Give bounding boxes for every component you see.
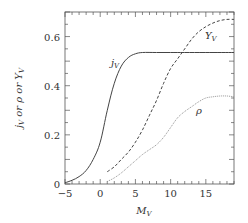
y-tick-label: 0.2: [44, 130, 60, 141]
curve-label-j: jV: [109, 57, 120, 70]
curve-label-upsilon: ΥV: [205, 30, 218, 43]
x-tick-label: 10: [164, 188, 177, 199]
y-axis-title: jV or ρ or ΥV: [13, 67, 26, 130]
y-tick-label: 0.6: [44, 32, 60, 43]
chart: −505101500.20.40.6 MV jV or ρ or ΥV jV Υ…: [0, 0, 248, 223]
y-tick-label: 0: [54, 179, 60, 190]
x-tick-label: 5: [132, 188, 138, 199]
series-line: [107, 96, 234, 182]
y-tick-label: 0.4: [44, 81, 60, 92]
curve-label-rho: ρ: [195, 105, 202, 116]
data-series: [65, 19, 234, 182]
x-tick-label: 0: [97, 188, 103, 199]
x-axis-title: MV: [135, 205, 152, 218]
series-line: [65, 52, 234, 182]
x-tick-label: 15: [199, 188, 212, 199]
